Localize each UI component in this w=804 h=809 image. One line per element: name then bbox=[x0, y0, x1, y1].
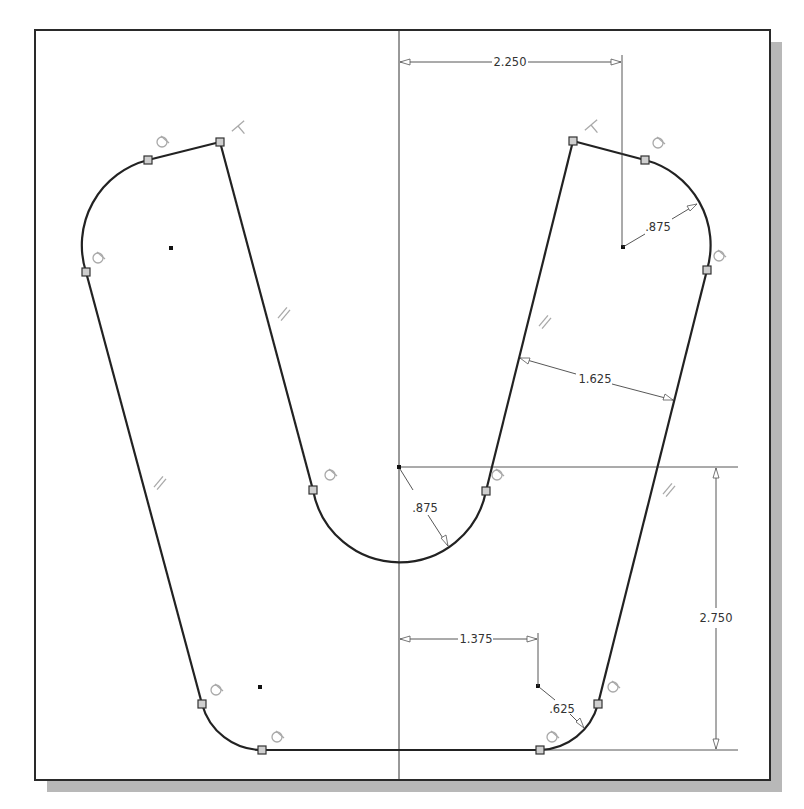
endpoint[interactable] bbox=[703, 266, 711, 274]
endpoint[interactable] bbox=[641, 156, 649, 164]
endpoint[interactable] bbox=[82, 268, 90, 276]
dimension-label[interactable]: 2.750 bbox=[700, 611, 733, 625]
endpoint[interactable] bbox=[536, 746, 544, 754]
endpoint[interactable] bbox=[216, 138, 224, 146]
arc-center-slot[interactable] bbox=[397, 465, 401, 469]
dimension-label[interactable]: 2.250 bbox=[494, 55, 527, 69]
dimension-label[interactable]: .625 bbox=[549, 702, 575, 716]
dimension-label[interactable]: .875 bbox=[412, 501, 438, 515]
sketch-canvas[interactable]: 2.250 .875 1.625 .875 1.375 .625 bbox=[0, 0, 804, 809]
endpoint[interactable] bbox=[482, 487, 490, 495]
endpoint[interactable] bbox=[198, 700, 206, 708]
dimension-label[interactable]: .875 bbox=[645, 220, 671, 234]
endpoint[interactable] bbox=[594, 700, 602, 708]
endpoint[interactable] bbox=[258, 746, 266, 754]
endpoint[interactable] bbox=[144, 156, 152, 164]
arc-center-top-left[interactable] bbox=[169, 246, 173, 250]
arc-center-bottom-left[interactable] bbox=[258, 685, 262, 689]
dimension-label[interactable]: 1.625 bbox=[579, 372, 612, 386]
endpoint[interactable] bbox=[569, 137, 577, 145]
dimension-label[interactable]: 1.375 bbox=[460, 632, 493, 646]
endpoint[interactable] bbox=[309, 486, 317, 494]
